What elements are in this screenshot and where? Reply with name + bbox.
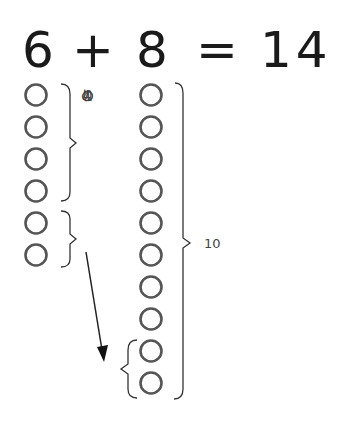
- arrow-head-icon: [97, 345, 108, 362]
- bracket-remaining-four: [61, 84, 76, 201]
- counter-circle: [141, 341, 162, 362]
- remaining-label-char: 4: [80, 89, 94, 103]
- counter-circle: [26, 117, 47, 138]
- counter-circle: [26, 149, 47, 170]
- counter-circle: [141, 149, 162, 170]
- bracket-two: [61, 211, 76, 267]
- counter-circle: [26, 213, 47, 234]
- counting-diagram: [0, 0, 340, 424]
- counter-circle: [26, 85, 47, 106]
- counter-circle: [26, 245, 47, 266]
- bracket-ten: [174, 83, 190, 399]
- counter-circle: [26, 181, 47, 202]
- bracket-moved-two: [121, 340, 137, 398]
- counter-circle: [141, 117, 162, 138]
- counter-circle: [141, 309, 162, 330]
- ten-label: 10: [204, 236, 221, 251]
- arrow: [86, 252, 108, 362]
- counter-circle: [141, 181, 162, 202]
- arrow-line: [86, 252, 102, 350]
- counter-circle: [141, 213, 162, 234]
- right-circles: [141, 85, 162, 394]
- counter-circle: [141, 245, 162, 266]
- counter-circle: [141, 373, 162, 394]
- left-circles: [26, 85, 47, 266]
- counter-circle: [141, 277, 162, 298]
- counter-circle: [141, 85, 162, 106]
